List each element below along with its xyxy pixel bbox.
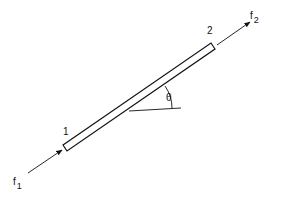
reference-line [129, 108, 181, 111]
force-f2-name: f [250, 10, 253, 21]
force-f1-label: f1 [13, 177, 22, 187]
force-f2-label: f2 [250, 11, 259, 21]
force-f1-name: f [13, 176, 16, 187]
force-arrow-f1 [28, 150, 62, 173]
force-f1-subscript: 1 [17, 181, 22, 191]
bar-element-diagram [0, 0, 282, 200]
bar-element [63, 43, 215, 151]
angle-theta-label: θ [166, 93, 172, 103]
node-1-label: 1 [63, 127, 69, 137]
force-arrow-f2 [217, 22, 250, 45]
node-2-label: 2 [207, 26, 213, 36]
force-f2-subscript: 2 [254, 15, 259, 25]
